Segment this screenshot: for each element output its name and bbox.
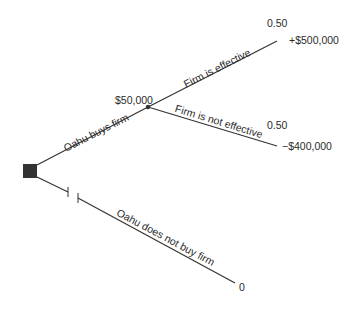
not-buy-branch-line-start [37, 177, 68, 192]
not-buy-payoff: 0 [239, 282, 245, 293]
decision-node-square [23, 164, 37, 178]
not-buy-branch-line-end [78, 198, 235, 283]
expected-value-label: $50,000 [115, 95, 153, 106]
effective-payoff: +$500,000 [289, 35, 339, 46]
effective-probability: 0.50 [267, 18, 287, 29]
not-effective-probability: 0.50 [267, 120, 287, 131]
decision-tree-lines [0, 0, 351, 310]
not-effective-payoff: −$400,000 [282, 141, 332, 152]
